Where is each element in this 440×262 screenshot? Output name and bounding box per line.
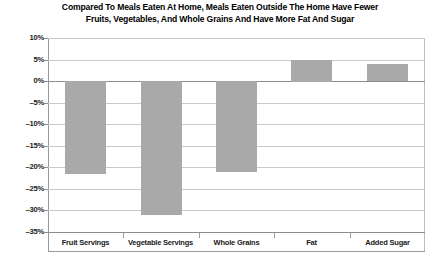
bar: [141, 81, 182, 215]
gridline-neg30: [48, 210, 425, 211]
y-tick: –5%: [0, 98, 44, 108]
y-axis: 10%5%0%–5%–10%–15%–20%–25%–30%–35%: [0, 38, 44, 232]
x-axis-label: Added Sugar: [350, 238, 425, 247]
y-tick-label: 10%: [4, 33, 44, 42]
category-separator: [199, 233, 200, 238]
category-separator: [123, 233, 124, 238]
chart-title-line-2: Fruits, Vegetables, And Whole Grains And…: [20, 14, 420, 26]
y-tick-label: –25%: [4, 184, 44, 193]
chart-title: Compared To Meals Eaten At Home, Meals E…: [20, 2, 420, 25]
y-tick: 0%: [0, 76, 44, 86]
chart-title-line-1: Compared To Meals Eaten At Home, Meals E…: [20, 2, 420, 14]
y-axis-line: [48, 38, 49, 232]
y-tick-label: 5%: [4, 55, 44, 64]
y-tick-label: –15%: [4, 141, 44, 150]
bar: [65, 81, 106, 174]
x-axis-label: Vegetable Servings: [123, 238, 198, 247]
x-axis-label: Fat: [274, 238, 349, 247]
y-tick: –15%: [0, 141, 44, 151]
y-tick-label: –30%: [4, 205, 44, 214]
x-axis-label: Fruit Servings: [48, 238, 123, 247]
y-tick: –30%: [0, 205, 44, 215]
y-tick-label: –5%: [4, 98, 44, 107]
y-tick: 5%: [0, 55, 44, 65]
plot-right-border: [424, 38, 425, 232]
x-axis-label: Whole Grains: [199, 238, 274, 247]
bar: [291, 60, 332, 82]
y-tick: 10%: [0, 33, 44, 43]
y-tick: –10%: [0, 119, 44, 129]
gridline-5: [48, 60, 425, 61]
gridline-neg25: [48, 189, 425, 190]
y-tick-label: –35%: [4, 227, 44, 236]
x-axis-labels: Fruit ServingsVegetable ServingsWhole Gr…: [48, 233, 425, 252]
y-tick: –35%: [0, 227, 44, 237]
bar: [367, 64, 408, 81]
catband-bottom-border: [48, 251, 425, 252]
bar: [216, 81, 257, 172]
y-tick: –25%: [0, 184, 44, 194]
y-tick: –20%: [0, 162, 44, 172]
category-separator: [274, 233, 275, 238]
gridline-10: [48, 38, 425, 39]
category-separator: [350, 233, 351, 238]
bar-chart: Compared To Meals Eaten At Home, Meals E…: [0, 0, 440, 262]
y-tick-label: 0%: [4, 76, 44, 85]
plot-area: [48, 38, 425, 232]
y-tick-label: –20%: [4, 162, 44, 171]
y-tick-label: –10%: [4, 119, 44, 128]
